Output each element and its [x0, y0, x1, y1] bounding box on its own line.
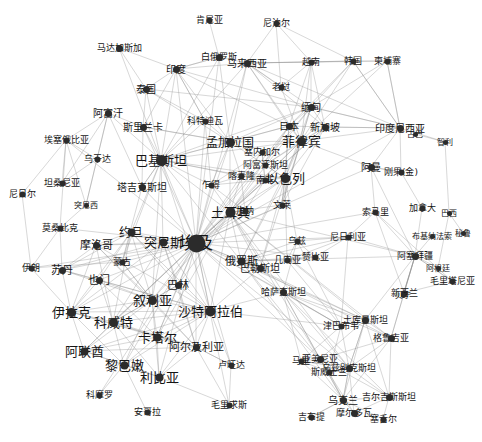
graph-node[interactable]: 贝宁: [403, 295, 404, 296]
graph-node[interactable]: 哈萨克斯坦: [283, 292, 284, 293]
graph-node[interactable]: 秘鲁: [463, 233, 464, 234]
graph-node[interactable]: 巴基斯坦: [161, 160, 162, 161]
graph-node[interactable]: 乌克兰: [343, 400, 344, 401]
graph-node[interactable]: 吉尔吉斯斯坦: [389, 397, 390, 398]
graph-node[interactable]: 叙利亚: [152, 300, 153, 301]
graph-node[interactable]: 韩国: [353, 61, 354, 62]
graph-node[interactable]: 斯威士兰: [329, 372, 330, 373]
graph-node[interactable]: 日本: [289, 126, 290, 127]
graph-node[interactable]: 泰国: [146, 89, 147, 90]
graph-node[interactable]: 阿根廷: [438, 268, 439, 269]
graph-node[interactable]: 伊朗: [31, 268, 32, 269]
graph-node[interactable]: 吉布提: [311, 417, 312, 418]
graph-node[interactable]: 科特迪瓦: [205, 121, 206, 122]
graph-node[interactable]: 津巴布韦: [341, 326, 342, 327]
graph-node[interactable]: 尼泊尔: [276, 23, 277, 24]
graph-node[interactable]: 新加坡: [325, 127, 326, 128]
node-dot-icon: [28, 265, 34, 271]
graph-node[interactable]: 乌干达: [97, 159, 98, 160]
node-dot-icon: [430, 234, 435, 239]
graph-node[interactable]: 蒙古: [122, 262, 123, 263]
node-dot-icon: [140, 124, 147, 131]
graph-node[interactable]: 塔吉克斯坦: [142, 187, 143, 188]
graph-node[interactable]: 利比亚: [159, 377, 160, 378]
graph-node[interactable]: 巴勒斯坦: [260, 268, 261, 269]
graph-node[interactable]: 布基纳法索: [432, 236, 433, 237]
graph-node[interactable]: 塞内加尔: [262, 152, 263, 153]
graph-node[interactable]: 孟加拉国: [230, 142, 231, 143]
graph-node[interactable]: 尼日利亚: [348, 237, 349, 238]
graph-node[interactable]: 几内亚: [287, 260, 288, 261]
graph-node[interactable]: 苏丹: [62, 270, 63, 271]
graph-node[interactable]: 肯尼亚: [209, 20, 210, 21]
graph-edge: [301, 141, 371, 167]
graph-node[interactable]: 突尼西: [86, 205, 87, 206]
graph-node[interactable]: 斯里兰卡: [143, 127, 144, 128]
graph-node[interactable]: 巴西: [449, 213, 450, 214]
graph-node[interactable]: 土库曼斯坦: [365, 320, 366, 321]
graph-node[interactable]: 印度尼西亚: [400, 128, 401, 129]
graph-node[interactable]: 阿联酋: [84, 351, 85, 352]
graph-node[interactable]: 卡塔尔: [157, 337, 158, 338]
graph-node[interactable]: 阿曼: [371, 167, 372, 168]
graph-node[interactable]: 阿富汗: [108, 113, 109, 114]
graph-node[interactable]: 伊拉克: [71, 312, 72, 313]
graph-node[interactable]: 尼日尔: [22, 194, 23, 195]
graph-node[interactable]: 埃塞俄比亚: [66, 140, 67, 141]
graph-node[interactable]: 加纳: [245, 211, 246, 212]
graph-node[interactable]: 古巴: [415, 134, 416, 135]
graph-node[interactable]: 马来西亚: [247, 63, 248, 64]
graph-node[interactable]: 越南: [311, 62, 312, 63]
graph-node[interactable]: 文莱: [282, 205, 283, 206]
graph-node[interactable]: 乌兹别克斯坦: [349, 368, 350, 369]
graph-node[interactable]: 安哥拉: [147, 412, 148, 413]
graph-node[interactable]: 乍得: [211, 185, 212, 186]
graph-edge: [84, 322, 113, 351]
graph-node[interactable]: 科威特: [113, 322, 114, 323]
graph-node[interactable]: 坦桑尼亚: [62, 183, 63, 184]
graph-node[interactable]: 摩洛哥: [96, 245, 97, 246]
graph-node[interactable]: 摩尔多瓦: [354, 413, 355, 414]
graph-node[interactable]: 印度: [176, 69, 177, 70]
graph-node[interactable]: 老挝: [281, 87, 282, 88]
graph-node[interactable]: 阿塞拜疆: [415, 256, 416, 257]
graph-node[interactable]: 约旦: [131, 232, 132, 233]
graph-node[interactable]: 柬埔寨: [387, 61, 388, 62]
graph-node[interactable]: 喀麦隆: [241, 176, 242, 177]
graph-node[interactable]: 阿尔及利亚: [196, 347, 197, 348]
graph-edge: [311, 400, 343, 417]
graph-node[interactable]: 乌兹: [297, 241, 298, 242]
graph-edge: [108, 113, 161, 160]
graph-node[interactable]: 科摩罗: [99, 395, 100, 396]
graph-node[interactable]: 黎巴嫩: [124, 365, 125, 366]
graph-node[interactable]: 索马里: [375, 212, 376, 213]
graph-node[interactable]: 莫桑比克: [60, 228, 61, 229]
graph-node[interactable]: 亚美尼亚: [320, 359, 321, 360]
graph-node[interactable]: 南非: [265, 180, 266, 181]
graph-node[interactable]: 卢旺达: [231, 365, 232, 366]
graph-node[interactable]: 俄罗斯: [241, 261, 242, 262]
graph-node[interactable]: 以色列: [285, 178, 286, 179]
graph-node[interactable]: 马里: [301, 361, 302, 362]
graph-node[interactable]: 智利: [445, 142, 446, 143]
graph-node[interactable]: 埃及: [196, 243, 197, 244]
graph-node[interactable]: 菲律宾: [301, 141, 302, 142]
node-dot-icon: [193, 344, 200, 351]
graph-node[interactable]: 格鲁吉亚: [391, 338, 392, 339]
graph-node[interactable]: 塞舌尔: [383, 419, 384, 420]
graph-node[interactable]: 加拿大: [422, 208, 423, 209]
graph-node[interactable]: 巴林: [178, 285, 179, 286]
graph-node[interactable]: 马达加斯加: [119, 48, 120, 49]
graph-node[interactable]: 也门: [99, 280, 100, 281]
graph-node[interactable]: 毛里塔尼亚: [452, 281, 453, 282]
graph-node[interactable]: 突尼斯: [163, 242, 164, 243]
graph-node[interactable]: 白俄罗斯: [219, 57, 220, 58]
graph-edge: [315, 237, 348, 257]
graph-node[interactable]: 阿富汗斯坦: [265, 165, 266, 166]
graph-node[interactable]: 毛里求斯: [229, 405, 230, 406]
graph-node[interactable]: 赞比亚: [315, 257, 316, 258]
graph-node[interactable]: 缅甸: [311, 107, 312, 108]
graph-node[interactable]: 土耳其: [230, 212, 231, 213]
graph-node[interactable]: 沙特阿拉伯: [210, 311, 211, 312]
graph-node[interactable]: 刚果(金): [401, 172, 402, 173]
